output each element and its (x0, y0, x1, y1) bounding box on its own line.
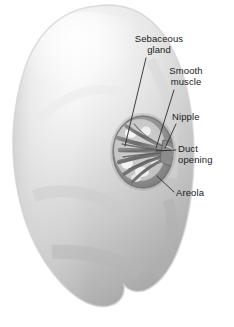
label-smooth-muscle: Smooth muscle (158, 66, 214, 87)
label-nipple: Nipple (172, 112, 224, 123)
label-sebaceous-gland: Sebaceous gland (128, 34, 190, 55)
label-areola: Areola (176, 188, 228, 199)
breast-anatomy-figure: Sebaceous gland Smooth muscle Nipple Duc… (0, 0, 234, 327)
label-duct-opening: Duct opening (178, 144, 234, 165)
